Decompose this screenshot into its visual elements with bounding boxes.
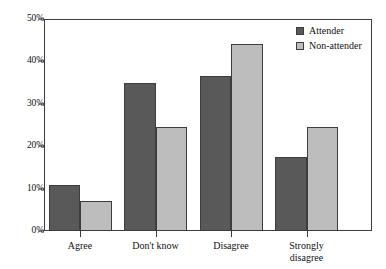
x-axis-tick-mark: [231, 231, 232, 237]
legend: AttenderNon-attender: [296, 24, 370, 54]
bar-non-attender-2: [231, 44, 263, 231]
y-axis-tick-label: 50%: [8, 14, 44, 24]
x-axis-tick-mark: [80, 231, 81, 237]
light-gray-swatch: [296, 42, 304, 50]
y-axis-tick-label: 0%: [8, 226, 44, 236]
legend-item-label: Attender: [309, 26, 344, 36]
x-axis-tick-mark: [307, 231, 308, 237]
cropped-caption-remnant: [0, 0, 386, 7]
y-axis-tick-label: 20%: [8, 141, 44, 151]
dark-gray-swatch: [296, 27, 304, 35]
bar-non-attender-0: [80, 201, 112, 231]
y-axis-tick-label: 30%: [8, 99, 44, 109]
x-axis-tick-label: Strongly disagree: [262, 240, 352, 263]
bar-attender-0: [49, 185, 81, 231]
legend-item: Attender: [296, 24, 370, 37]
legend-item-label: Non-attender: [309, 41, 362, 51]
bar-attender-2: [200, 76, 232, 231]
bar-non-attender-1: [156, 127, 188, 231]
x-axis: AgreeDon't knowDisagreeStrongly disagree: [44, 231, 372, 269]
y-axis: 0%10%20%30%40%50%: [0, 0, 44, 269]
y-axis-tick-label: 10%: [8, 184, 44, 194]
legend-item: Non-attender: [296, 39, 370, 52]
bar-non-attender-3: [307, 127, 339, 231]
y-axis-tick-label: 40%: [8, 57, 44, 67]
x-axis-tick-mark: [156, 231, 157, 237]
bar-chart: 0%10%20%30%40%50% AgreeDon't knowDisagre…: [0, 0, 386, 269]
bar-attender-1: [124, 83, 156, 231]
bar-attender-3: [275, 157, 307, 231]
